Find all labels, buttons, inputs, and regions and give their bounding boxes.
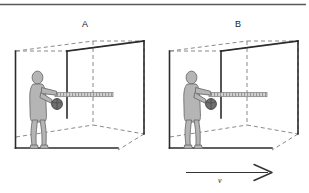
velocity-arrow	[186, 165, 272, 181]
panel-label-b: B	[228, 19, 248, 29]
panel-a-ball	[52, 99, 63, 110]
panel-a-person	[30, 71, 57, 148]
diagram-canvas	[0, 0, 309, 193]
panel-b	[170, 41, 299, 150]
panel-b-trajectory-bar	[209, 93, 267, 97]
panel-label-a: A	[75, 19, 95, 29]
panel-a	[16, 41, 145, 150]
panel-a-trajectory-bar	[55, 93, 113, 97]
velocity-label: v	[218, 176, 222, 185]
physics-diagram-figure: A B v	[0, 0, 309, 193]
panel-b-ball	[206, 99, 217, 110]
panel-b-person	[184, 71, 211, 148]
